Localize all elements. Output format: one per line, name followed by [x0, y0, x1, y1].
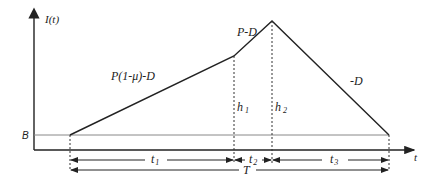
y-axis-label: I(t) [44, 13, 59, 26]
slope-label-phase1: P(1-μ)-D [110, 69, 155, 83]
inventory-diagram: I(t) t B P(1-μ)-D P-D -D h1 h2 t1 t2 t3 … [0, 0, 439, 181]
baseline-label: B [22, 130, 29, 141]
t1-label: t1 [151, 152, 159, 167]
x-axis-label: t [414, 151, 418, 163]
slope-label-phase3: -D [350, 74, 363, 88]
t2-label: t2 [249, 152, 257, 167]
h2-label: h2 [275, 100, 287, 115]
slope-label-phase2: P-D [236, 25, 257, 39]
h1-label: h1 [237, 100, 249, 115]
t3-label: t3 [330, 152, 338, 167]
